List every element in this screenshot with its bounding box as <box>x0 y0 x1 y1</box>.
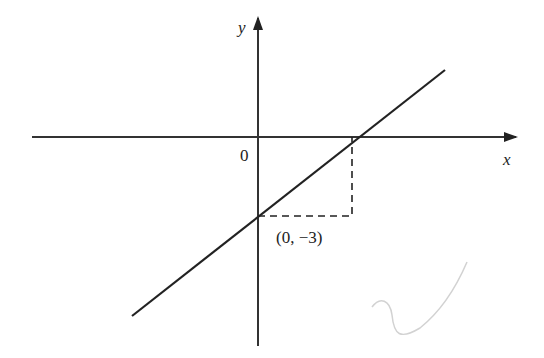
dashed-guide <box>258 137 352 216</box>
graph-canvas <box>0 0 544 358</box>
x-axis-label: x <box>503 150 511 170</box>
y-intercept-label: (0, −3) <box>276 228 322 248</box>
graph-line <box>132 70 445 316</box>
pencil-mark <box>372 262 467 334</box>
y-axis-label: y <box>238 18 246 38</box>
origin-label: 0 <box>240 146 249 166</box>
